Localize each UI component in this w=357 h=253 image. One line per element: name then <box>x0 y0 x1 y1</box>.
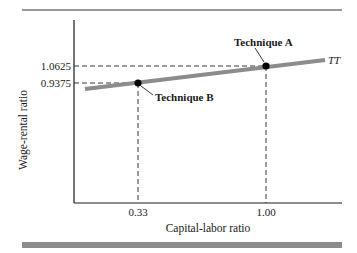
x-axis-label: Capital-labor ratio <box>166 222 251 235</box>
tt-line <box>85 60 325 89</box>
x-tick-left: 0.33 <box>128 206 148 218</box>
leader-technique-a <box>255 48 264 62</box>
x-tick-right: 1.00 <box>256 206 276 218</box>
y-axis-label: Wage-rental ratio <box>17 90 30 170</box>
label-technique-b: Technique B <box>155 91 214 103</box>
chart: Technique A Technique B TT 1.0625 0.9375… <box>0 0 357 253</box>
y-tick-high: 1.0625 <box>41 60 72 72</box>
label-tt: TT <box>328 54 341 66</box>
y-tick-low: 0.9375 <box>41 77 72 89</box>
label-technique-a: Technique A <box>234 36 293 48</box>
point-technique-a <box>262 62 269 69</box>
leader-technique-b <box>141 86 153 95</box>
bottom-bar <box>22 242 342 248</box>
point-technique-b <box>134 79 141 86</box>
